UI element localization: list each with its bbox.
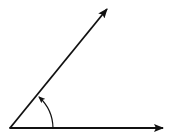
vertex-point bbox=[9, 127, 11, 129]
terminal-side-ray bbox=[10, 9, 107, 128]
angle-arc-arrow bbox=[39, 97, 53, 128]
angle-diagram bbox=[0, 0, 171, 139]
